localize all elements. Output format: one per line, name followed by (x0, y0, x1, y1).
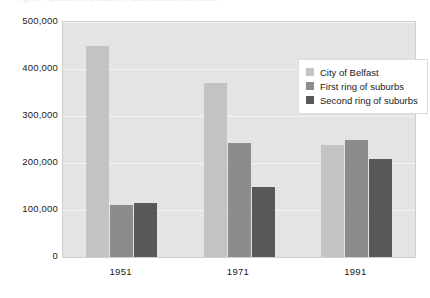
bar-1971-series-0[interactable] (204, 83, 227, 257)
clipped-figure-caption: Figure Population of Belfast city and su… (16, 0, 416, 4)
bar-1971-series-2[interactable] (252, 187, 275, 258)
y-axis: 500,000400,000300,000200,000100,0000 (0, 0, 58, 277)
legend-item-label: City of Belfast (320, 67, 379, 78)
bar-group-1951 (86, 22, 157, 257)
legend-item[interactable]: First ring of suburbs (306, 79, 418, 93)
y-axis-tick-label: 0 (2, 251, 58, 261)
y-axis-tick-label: 400,000 (2, 63, 58, 73)
x-axis: 195119711991 (62, 258, 416, 280)
bar-series-container (63, 22, 415, 257)
bar-1991-series-0[interactable] (321, 145, 344, 257)
bar-group-1991 (321, 22, 392, 257)
y-axis-tick-label: 500,000 (2, 16, 58, 26)
legend-item-label: First ring of suburbs (320, 81, 404, 92)
bar-1991-series-2[interactable] (369, 159, 392, 257)
legend-swatch-icon (306, 82, 314, 90)
y-axis-tick-label: 100,000 (2, 204, 58, 214)
bar-chart: Figure Population of Belfast city and su… (0, 0, 430, 298)
legend-swatch-icon (306, 96, 314, 104)
legend: City of BelfastFirst ring of suburbsSeco… (298, 59, 428, 114)
legend-item-label: Second ring of suburbs (320, 95, 418, 106)
plot-area: City of BelfastFirst ring of suburbsSeco… (62, 21, 416, 258)
x-axis-tick-label: 1971 (179, 266, 296, 277)
bar-group-1971 (204, 22, 275, 257)
legend-swatch-icon (306, 68, 314, 76)
x-axis-tick-label: 1951 (62, 266, 179, 277)
legend-item[interactable]: City of Belfast (306, 65, 418, 79)
y-axis-tick-label: 300,000 (2, 110, 58, 120)
legend-item[interactable]: Second ring of suburbs (306, 93, 418, 107)
x-axis-tick-label: 1991 (297, 266, 414, 277)
y-axis-tick-label: 200,000 (2, 157, 58, 167)
bar-1951-series-2[interactable] (134, 203, 157, 257)
bar-1951-series-0[interactable] (86, 46, 109, 258)
bar-1951-series-1[interactable] (110, 205, 133, 257)
bar-1991-series-1[interactable] (345, 140, 368, 258)
bar-1971-series-1[interactable] (228, 143, 251, 257)
